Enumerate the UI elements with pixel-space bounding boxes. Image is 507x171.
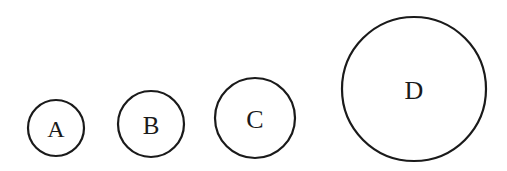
circle-b-label: B [143,112,160,139]
circle-a: A [28,100,84,156]
circle-a-label: A [47,116,65,142]
circles-diagram: A B C D [0,0,507,171]
circle-d-label: D [405,76,424,105]
diagram-canvas: A B C D [0,0,507,171]
circle-c: C [215,78,295,158]
circle-d: D [342,17,486,161]
circle-c-label: C [246,105,263,134]
circle-b: B [118,91,184,157]
